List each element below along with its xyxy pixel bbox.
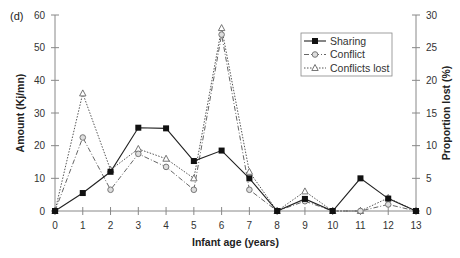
data-point-conflict [247,187,253,193]
y-tick-label: 10 [34,173,46,184]
data-point-conflict [108,187,114,193]
data-point-sharing [219,148,225,154]
y-tick-label: 50 [34,42,46,53]
data-point-sharing [80,190,86,196]
data-point-conflict [163,164,169,170]
y2-tick-label: 5 [426,173,432,184]
y2-tick-label: 15 [426,108,438,119]
data-point-sharing [52,208,58,214]
legend-marker-icon [312,52,318,58]
y-tick-label: 60 [34,10,46,21]
x-tick-label: 12 [383,220,395,231]
data-point-sharing [135,125,141,131]
y-tick-label: 20 [34,140,46,151]
data-point-sharing [302,196,308,202]
x-tick-label: 11 [355,220,366,231]
y2-axis-title: Proportion lost (%) [440,66,452,161]
line-chart: 0102030405060051015202530012345678910111… [0,0,460,258]
data-point-sharing [413,208,419,214]
data-point-conflict [136,151,142,157]
y-axis-title: Amount (Kj/mn) [14,74,26,153]
x-tick-label: 13 [410,220,422,231]
panel-label: (d) [10,10,23,22]
x-axis-title: Infant age (years) [192,236,279,248]
data-point-conflicts-lost [246,168,252,174]
legend-label: Conflict [330,48,365,60]
data-point-sharing [191,158,197,164]
x-tick-label: 9 [302,220,308,231]
y-tick-label: 40 [34,75,46,86]
y2-tick-label: 0 [426,206,432,217]
data-point-sharing [385,196,391,202]
data-point-sharing [163,125,169,131]
x-tick-label: 7 [247,220,253,231]
data-point-sharing [330,208,336,214]
x-tick-label: 1 [80,220,86,231]
y-tick-label: 30 [34,108,46,119]
x-tick-label: 6 [219,220,225,231]
chart-canvas: 0102030405060051015202530012345678910111… [0,0,460,258]
x-tick-label: 3 [136,220,142,231]
y2-tick-label: 20 [426,75,438,86]
x-tick-label: 4 [163,220,169,231]
data-point-conflict [219,32,225,38]
x-tick-label: 2 [108,220,114,231]
data-point-sharing [108,169,114,175]
data-point-sharing [246,175,252,181]
data-point-sharing [274,208,280,214]
data-point-conflicts-lost [80,90,86,96]
legend-label: Sharing [330,35,366,47]
legend-marker-icon [312,38,318,44]
data-point-conflict [80,135,86,141]
data-point-conflicts-lost [218,25,224,31]
data-point-conflict [191,187,197,193]
data-point-conflict [358,208,364,214]
data-point-sharing [357,175,363,181]
legend-label: Conflicts lost [330,62,390,74]
x-tick-label: 5 [191,220,197,231]
y2-tick-label: 25 [426,42,438,53]
data-point-conflicts-lost [302,188,308,194]
y2-tick-label: 30 [426,10,438,21]
x-tick-label: 8 [274,220,280,231]
x-tick-label: 10 [327,220,339,231]
y2-tick-label: 10 [426,140,438,151]
x-tick-label: 0 [52,220,58,231]
y-tick-label: 0 [39,206,45,217]
data-point-conflict [385,202,391,208]
